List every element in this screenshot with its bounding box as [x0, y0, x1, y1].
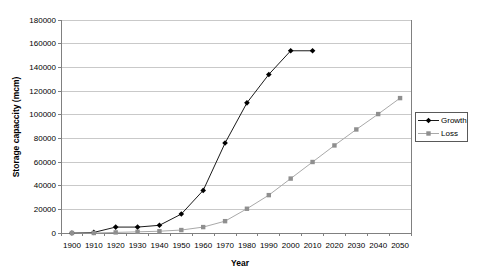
data-point-diamond [113, 224, 119, 230]
x-tick-label: 1960 [194, 241, 212, 250]
data-point-diamond [310, 48, 316, 54]
data-point-square [201, 225, 205, 229]
x-tick-label: 1980 [238, 241, 256, 250]
x-tick-label: 2000 [282, 241, 300, 250]
legend-label-loss: Loss [441, 129, 458, 139]
x-tick-label: 1920 [107, 241, 125, 250]
x-tick-label: 1910 [85, 241, 103, 250]
x-tick-label: 1950 [172, 241, 190, 250]
y-tick-label: 40000 [34, 181, 57, 190]
data-point-square [135, 230, 139, 234]
x-tick-label: 1990 [260, 241, 278, 250]
loss-line-square-icon [418, 129, 439, 138]
data-point-diamond [426, 118, 432, 124]
y-tick-label: 160000 [29, 39, 56, 48]
x-tick-label: 1940 [151, 241, 169, 250]
series-line-loss [72, 98, 400, 233]
data-point-square [92, 231, 96, 235]
data-point-square [179, 228, 183, 232]
data-point-square [157, 229, 161, 233]
data-point-diamond [135, 224, 141, 230]
y-tick-label: 100000 [29, 110, 56, 119]
x-tick-label: 2050 [391, 241, 409, 250]
legend-item-loss: Loss [416, 127, 467, 140]
plot-area: 0200004000060000800001000001200001400001… [0, 0, 479, 277]
x-tick-label: 2040 [369, 241, 387, 250]
x-tick-label: 2010 [304, 241, 322, 250]
series-line-growth [72, 51, 313, 233]
data-point-diamond [157, 223, 163, 229]
x-tick-label: 1900 [63, 241, 81, 250]
data-point-square [426, 131, 430, 135]
legend-item-growth: Growth [416, 114, 467, 127]
x-tick-label: 1930 [129, 241, 147, 250]
data-point-square [267, 193, 271, 197]
storage-capacity-chart: 0200004000060000800001000001200001400001… [0, 0, 479, 277]
y-tick-label: 180000 [29, 16, 56, 25]
y-tick-label: 20000 [34, 205, 57, 214]
y-tick-label: 120000 [29, 87, 56, 96]
data-point-square [113, 230, 117, 234]
x-tick-label: 2030 [347, 241, 365, 250]
y-tick-label: 140000 [29, 63, 56, 72]
data-point-square [376, 112, 380, 116]
data-point-square [310, 160, 314, 164]
x-axis-title: Year [231, 258, 249, 268]
data-point-square [398, 96, 402, 100]
y-axis-title: Storage capaccity (mcm) [11, 77, 21, 178]
data-point-square [70, 231, 74, 235]
data-point-square [223, 219, 227, 223]
y-tick-label: 60000 [34, 158, 57, 167]
y-tick-label: 0 [52, 229, 57, 238]
data-point-diamond [222, 140, 228, 146]
data-point-square [245, 207, 249, 211]
legend: Growth Loss [415, 112, 468, 142]
legend-label-growth: Growth [441, 116, 467, 126]
data-point-square [332, 143, 336, 147]
y-tick-label: 80000 [34, 134, 57, 143]
x-tick-label: 1970 [216, 241, 234, 250]
growth-line-diamond-icon [418, 116, 439, 125]
x-tick-label: 2020 [326, 241, 344, 250]
data-point-square [354, 127, 358, 131]
data-point-square [288, 176, 292, 180]
